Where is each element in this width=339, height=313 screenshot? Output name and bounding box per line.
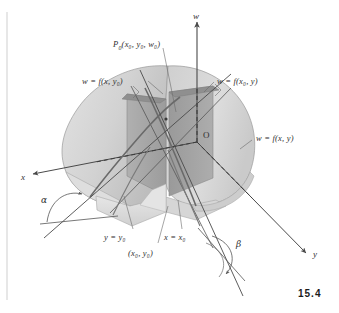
label-angle-beta: β xyxy=(236,240,241,249)
label-w-axis: w xyxy=(193,12,199,21)
alpha-reference-line xyxy=(40,216,118,224)
label-plane-x: x = x₀ xyxy=(164,233,186,242)
label-y-axis: y xyxy=(313,250,317,259)
label-base-point: (x₀, y₀) xyxy=(128,249,153,258)
figure-15-4-diagram xyxy=(0,0,339,313)
point-p0-coords: (x₀, y₀, w₀) xyxy=(122,39,161,49)
label-angle-alpha: α xyxy=(41,196,47,205)
point-p0-label: P0(x₀, y₀, w₀) xyxy=(113,40,160,51)
figure-number: 15.4 xyxy=(298,288,321,299)
label-trace-x: w = f(x, y₀) xyxy=(82,77,123,86)
label-trace-y: w = f(x₀, y) xyxy=(217,77,258,86)
point-p0-marker xyxy=(164,117,167,120)
label-x-axis: x xyxy=(21,173,25,182)
alpha-arc xyxy=(47,193,82,222)
label-origin: O xyxy=(203,131,210,140)
label-plane-y: y = y₀ xyxy=(104,233,126,242)
label-surface: w = f(x, y) xyxy=(256,134,294,143)
plane-x-equals-x0 xyxy=(169,86,213,196)
